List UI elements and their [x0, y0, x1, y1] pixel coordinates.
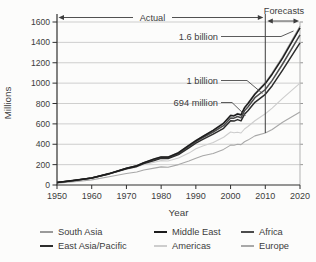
legend-item-middle-east: Middle East [154, 226, 241, 238]
y-tick-label: 200 [36, 160, 51, 170]
arrowhead-left [59, 15, 65, 20]
x-tick-label: 2000 [221, 191, 241, 201]
series-line-africa [57, 35, 300, 183]
x-tick-label: 1950 [47, 191, 67, 201]
legend-label-east-asia-pacific: East Asia/Pacific [58, 240, 127, 252]
leader-1-6-billion [221, 31, 294, 37]
y-tick-label: 0 [45, 180, 50, 190]
arrowhead-right [258, 15, 264, 20]
legend-label-africa: Africa [259, 226, 283, 238]
actual-range-label: Actual [140, 13, 166, 23]
legend-item-africa: Africa [241, 226, 316, 238]
annotation-1-billion: 1 billion [186, 76, 218, 86]
middle-east-line-swatch [154, 231, 167, 233]
annotation-1-6-billion: 1.6 billion [179, 32, 218, 42]
x-tick-label: 2020 [290, 191, 310, 201]
x-axis-title: Year [169, 207, 190, 218]
y-tick-label: 1000 [31, 78, 50, 88]
legend-item-east-asia-pacific: East Asia/Pacific [40, 240, 154, 252]
y-tick-label: 1600 [31, 17, 50, 27]
south-asia-line-swatch [40, 231, 53, 233]
east-asia-pacific-line-swatch [40, 245, 53, 247]
legend-label-middle-east: Middle East [172, 226, 221, 238]
africa-line-swatch [241, 231, 254, 233]
europe-line-swatch [241, 245, 254, 247]
annotation-694-million: 694 million [174, 98, 218, 108]
y-tick-label: 1200 [31, 58, 50, 68]
legend-label-south-asia: South Asia [58, 226, 102, 238]
y-axis-title: Millions [2, 87, 13, 120]
x-tick-label: 1980 [151, 191, 171, 201]
americas-line-swatch [154, 245, 167, 247]
legend-item-americas: Americas [154, 240, 241, 252]
y-tick-label: 400 [36, 139, 51, 149]
legend-label-europe: Europe [259, 240, 289, 252]
series-line-east-asia-pacific [57, 43, 300, 183]
tourism-forecast-chart: 0200400600800100012001400160019501960197… [0, 0, 316, 262]
legend-label-americas: Americas [172, 240, 211, 252]
legend-item-south-asia: South Asia [40, 226, 154, 238]
x-tick-label: 2010 [255, 191, 275, 201]
arrowhead-left [267, 19, 273, 24]
legend: South Asia Middle East Africa East Asia/… [40, 226, 316, 252]
series-line-europe [57, 112, 300, 183]
y-tick-label: 1400 [31, 37, 50, 47]
y-tick-label: 800 [36, 99, 51, 109]
legend-item-europe: Europe [241, 240, 316, 252]
x-tick-label: 1990 [186, 191, 206, 201]
x-tick-label: 1960 [82, 191, 102, 201]
x-tick-label: 1970 [116, 191, 136, 201]
chart-canvas: 0200400600800100012001400160019501960197… [0, 0, 316, 224]
forecasts-range-label: Forecasts [264, 6, 305, 16]
y-tick-label: 600 [36, 119, 51, 129]
arrowhead-right [294, 19, 300, 24]
